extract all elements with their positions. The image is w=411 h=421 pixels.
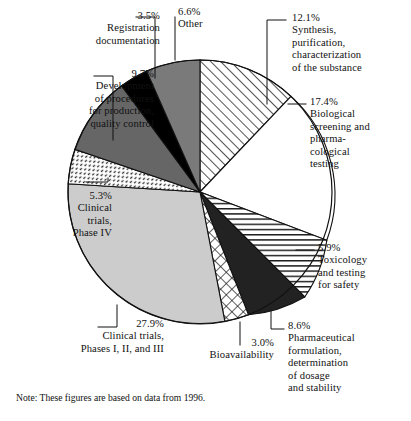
- leader-line-pharmform: [271, 310, 284, 329]
- pie-label-biological-text: Biological screening and pharma- cologic…: [310, 108, 370, 169]
- pie-label-other: 6.6%Other: [178, 6, 274, 31]
- pie-label-pharmform-text: Pharmaceutical formulation, determinatio…: [288, 332, 355, 393]
- pie-label-registration-text: Registration documentation: [96, 22, 160, 45]
- pie-label-development-percent: 9.7%: [132, 68, 154, 79]
- pie-label-other-text: Other: [178, 18, 203, 29]
- pie-label-other-percent: 6.6%: [178, 6, 200, 17]
- pie-label-toxicology-text: Toxicology and testing for safety: [318, 254, 367, 290]
- figure-canvas: 3.5%Registration documentation 9.7%Devel…: [0, 0, 411, 421]
- pie-label-clinical-trials-phase4: 5.3%Clinical trials, Phase IV: [8, 190, 112, 240]
- pie-label-development-text: Development of procedures for production…: [89, 80, 154, 128]
- pie-label-pharmform-percent: 8.6%: [288, 320, 310, 331]
- pie-label-phase4-text: Clinical trials, Phase IV: [73, 202, 112, 238]
- pie-label-synthesis-percent: 12.1%: [292, 12, 320, 23]
- pie-label-biological-percent: 17.4%: [310, 96, 338, 107]
- pie-label-pharmaceutical-formulation: 8.6%Pharmaceutical formulation, determin…: [288, 320, 410, 394]
- pie-label-trials123-percent: 27.9%: [136, 318, 164, 329]
- pie-label-toxicology-percent: 5.9%: [318, 242, 340, 253]
- pie-label-biological: 17.4%Biological screening and pharma- co…: [310, 96, 410, 170]
- pie-label-synthesis-text: Synthesis, purification, characterizatio…: [292, 24, 362, 72]
- pie-label-toxicology: 5.9%Toxicology and testing for safety: [318, 242, 410, 292]
- pie-label-synthesis: 12.1%Synthesis, purification, characteri…: [292, 12, 410, 74]
- pie-label-bioavailability-text: Bioavailability: [210, 349, 274, 360]
- figure-note: Note: These figures are based on data fr…: [16, 392, 396, 404]
- pie-label-bioavailability-percent: 3.0%: [252, 337, 274, 348]
- pie-label-bioavailability: 3.0%Bioavailability: [152, 337, 274, 362]
- pie-label-phase4-percent: 5.3%: [90, 190, 112, 201]
- pie-label-registration-documentation: 3.5%Registration documentation: [18, 10, 160, 47]
- pie-label-development-procedures: 9.7%Development of procedures for produc…: [4, 68, 154, 130]
- pie-label-registration-percent: 3.5%: [138, 10, 160, 21]
- pie-label-clinical-trials-123: 27.9%Clinical trials, Phases I, II, and …: [6, 318, 164, 355]
